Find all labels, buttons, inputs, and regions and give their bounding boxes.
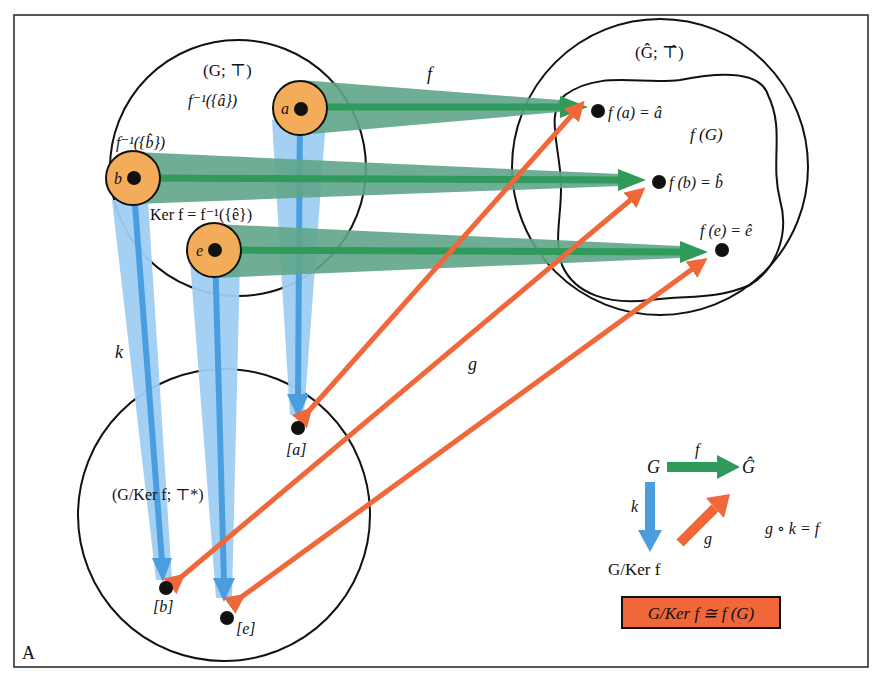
point-coset-a [291,421,305,435]
point-b [127,171,141,185]
point-b-label: b [114,170,122,187]
panel-label: A [22,643,35,663]
cd-quotient-label: G/Ker f [608,560,661,579]
point-f-b [652,175,666,189]
cd-G-hat-label: Ĝ [742,456,755,477]
preimage-b-label: f⁻¹({b̂}) [116,133,165,152]
point-coset-b [159,581,173,595]
map-k-label: k [115,342,124,362]
f-a-label: f (a) = â [608,104,662,122]
coset-a-label: [a] [286,441,306,458]
point-coset-e [220,611,234,625]
f-e-label: f (e) = ê [700,222,753,240]
isomorphism-diagram: (G; ⊤) f⁻¹({â}) f⁻¹({b̂}) Ker f = f⁻¹({ê… [0,0,883,684]
quotient-set-label: (G/Ker f; ⊤*) [112,486,203,504]
f-b-label: f (b) = b̂ [669,173,723,192]
cd-equation: g ∘ k = f [765,520,822,538]
image-label: f (G) [690,125,723,144]
theorem-text: G/Ker f ≅ f (G) [648,604,755,623]
point-a-label: a [281,100,289,117]
point-f-a [591,104,605,118]
map-g-label: g [468,354,477,374]
codomain-set-label: (Ĝ; ⊤̂) [635,43,684,62]
point-f-e [715,243,729,257]
point-a [294,102,308,116]
cd-g-label: g [704,530,712,548]
coset-b-label: [b] [153,598,173,615]
cd-k-label: k [631,498,639,515]
preimage-a-label: f⁻¹({â}) [188,92,237,110]
point-e [208,243,222,257]
cd-G-label: G [647,457,660,477]
domain-set-label: (G; ⊤) [203,61,252,80]
kernel-label: Ker f = f⁻¹({ê}) [150,206,252,224]
point-e-label: e [196,242,203,259]
coset-e-label: [e] [236,620,256,637]
